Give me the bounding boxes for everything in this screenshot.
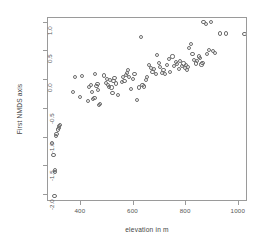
y-axis-tick-label: -2.0 bbox=[48, 194, 55, 205]
x-axis-tick-label: 600 bbox=[127, 207, 138, 214]
data-point bbox=[80, 74, 84, 78]
data-point bbox=[187, 46, 191, 50]
data-point bbox=[109, 85, 113, 89]
x-axis-title: elevation in m bbox=[125, 226, 168, 233]
x-axis-tick bbox=[185, 201, 186, 205]
data-point bbox=[142, 84, 146, 88]
data-point bbox=[71, 90, 75, 94]
data-point bbox=[110, 91, 114, 95]
data-point bbox=[132, 72, 136, 76]
data-point bbox=[131, 77, 135, 81]
data-point bbox=[135, 98, 139, 102]
data-point bbox=[152, 67, 156, 71]
data-point bbox=[186, 65, 190, 69]
data-point bbox=[204, 22, 208, 26]
x-axis-tick-label: 800 bbox=[180, 207, 191, 214]
data-point bbox=[129, 87, 133, 91]
y-axis-tick bbox=[43, 137, 47, 138]
y-axis-tick bbox=[43, 165, 47, 166]
x-axis-tick-label: 1000 bbox=[230, 207, 245, 214]
data-point bbox=[190, 52, 194, 56]
data-point bbox=[170, 54, 174, 58]
data-point bbox=[154, 72, 158, 76]
data-point bbox=[189, 42, 193, 46]
data-point bbox=[78, 95, 82, 99]
data-point bbox=[224, 31, 228, 35]
data-point bbox=[93, 72, 97, 76]
data-point bbox=[90, 90, 94, 94]
data-point bbox=[145, 75, 149, 79]
scatter-plot-figure: 40060080010001.00.50.0-0.5-1.0-1.5-2.0 e… bbox=[0, 0, 268, 247]
data-point bbox=[89, 83, 93, 87]
data-point bbox=[73, 75, 77, 79]
data-point bbox=[114, 81, 118, 85]
data-point bbox=[163, 72, 167, 76]
data-point bbox=[51, 153, 55, 157]
data-point bbox=[242, 32, 246, 36]
data-point bbox=[161, 68, 165, 72]
data-point bbox=[86, 99, 90, 103]
data-point bbox=[98, 102, 102, 106]
data-point bbox=[168, 70, 172, 74]
data-point bbox=[54, 132, 58, 136]
data-point bbox=[92, 96, 96, 100]
data-point bbox=[200, 61, 204, 65]
data-point bbox=[116, 93, 120, 97]
data-point bbox=[218, 31, 222, 35]
y-axis-tick bbox=[43, 108, 47, 109]
x-axis-tick-label: 400 bbox=[74, 207, 85, 214]
data-point bbox=[139, 35, 143, 39]
x-axis-tick bbox=[238, 201, 239, 205]
data-point bbox=[213, 51, 217, 55]
data-point bbox=[165, 63, 169, 67]
data-point bbox=[122, 79, 126, 83]
data-point bbox=[58, 123, 62, 127]
x-axis-tick bbox=[133, 201, 134, 205]
data-point bbox=[209, 20, 213, 24]
y-axis-tick-label: 0.0 bbox=[46, 79, 53, 88]
data-point bbox=[155, 53, 159, 57]
data-point bbox=[112, 76, 116, 80]
data-point bbox=[96, 88, 100, 92]
plot-area bbox=[47, 17, 247, 201]
data-point bbox=[205, 52, 209, 56]
y-axis-tick bbox=[43, 194, 47, 195]
data-point bbox=[95, 82, 99, 86]
y-axis-tick-label: -1.5 bbox=[48, 165, 55, 176]
y-axis-tick-label: 1.0 bbox=[46, 22, 53, 31]
y-axis-title: First NMDS axis bbox=[16, 84, 23, 135]
data-point bbox=[198, 56, 202, 60]
y-axis-tick-label: 0.5 bbox=[46, 50, 53, 59]
y-axis-tick-label: -0.5 bbox=[48, 108, 55, 119]
data-point bbox=[126, 68, 130, 72]
x-axis-tick bbox=[80, 201, 81, 205]
data-points-layer bbox=[48, 18, 246, 200]
y-axis-tick-label: -1.0 bbox=[48, 137, 55, 148]
